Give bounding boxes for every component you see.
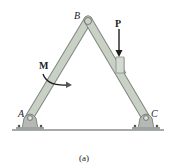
- figure-caption: (a): [79, 153, 89, 163]
- load-plate: [116, 57, 124, 73]
- pin-b-icon: [85, 18, 92, 25]
- label-p: P: [115, 18, 121, 29]
- label-m: M: [39, 60, 49, 71]
- truss-diagram: B P M A C (a): [0, 0, 174, 168]
- label-c: C: [151, 108, 158, 119]
- label-a: A: [17, 108, 25, 119]
- frame-svg: B P M A C (a): [0, 0, 174, 168]
- force-p-arrow-icon: [116, 29, 123, 57]
- member-ab: [29, 20, 88, 118]
- label-b: B: [74, 10, 80, 21]
